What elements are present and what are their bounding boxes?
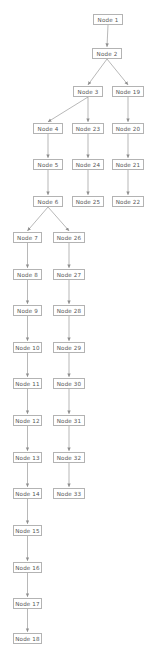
edge-n6-to-n26 xyxy=(48,207,69,231)
node-node-29[interactable]: Node 29 xyxy=(53,342,85,353)
node-node-7[interactable]: Node 7 xyxy=(13,232,42,243)
node-node-20[interactable]: Node 20 xyxy=(112,123,144,134)
node-node-2[interactable]: Node 2 xyxy=(92,48,122,59)
node-node-27[interactable]: Node 27 xyxy=(53,269,85,280)
node-node-23[interactable]: Node 23 xyxy=(72,123,104,134)
node-node-22[interactable]: Node 22 xyxy=(112,196,144,207)
node-node-12[interactable]: Node 12 xyxy=(13,415,42,426)
node-node-5[interactable]: Node 5 xyxy=(33,159,63,170)
flowchart-canvas: Node 1Node 2Node 3Node 19Node 4Node 23No… xyxy=(0,0,155,651)
node-node-14[interactable]: Node 14 xyxy=(13,488,42,499)
node-node-3[interactable]: Node 3 xyxy=(73,86,103,97)
node-node-4[interactable]: Node 4 xyxy=(33,123,63,134)
edge-n1-to-n2 xyxy=(107,25,108,47)
node-node-10[interactable]: Node 10 xyxy=(13,342,42,353)
node-node-33[interactable]: Node 33 xyxy=(53,488,85,499)
node-node-31[interactable]: Node 31 xyxy=(53,415,85,426)
edge-group xyxy=(28,25,129,632)
node-node-26[interactable]: Node 26 xyxy=(53,232,85,243)
node-node-15[interactable]: Node 15 xyxy=(13,525,42,536)
node-node-21[interactable]: Node 21 xyxy=(112,159,144,170)
edge-n6-to-n7 xyxy=(28,207,49,231)
node-node-19[interactable]: Node 19 xyxy=(112,86,144,97)
node-node-18[interactable]: Node 18 xyxy=(13,633,42,644)
node-node-1[interactable]: Node 1 xyxy=(93,14,123,25)
node-node-32[interactable]: Node 32 xyxy=(53,452,85,463)
node-node-25[interactable]: Node 25 xyxy=(72,196,104,207)
node-node-30[interactable]: Node 30 xyxy=(53,378,85,389)
node-node-9[interactable]: Node 9 xyxy=(13,305,42,316)
node-node-8[interactable]: Node 8 xyxy=(13,269,42,280)
node-node-11[interactable]: Node 11 xyxy=(13,378,42,389)
node-node-17[interactable]: Node 17 xyxy=(13,598,42,609)
node-node-28[interactable]: Node 28 xyxy=(53,305,85,316)
edge-n2-to-n3 xyxy=(88,59,107,85)
edge-n2-to-n19 xyxy=(107,59,128,85)
node-node-16[interactable]: Node 16 xyxy=(13,562,42,573)
edge-n3-to-n4 xyxy=(48,97,88,122)
node-node-6[interactable]: Node 6 xyxy=(33,196,63,207)
node-node-13[interactable]: Node 13 xyxy=(13,452,42,463)
node-node-24[interactable]: Node 24 xyxy=(72,159,104,170)
edge-layer xyxy=(0,0,155,651)
